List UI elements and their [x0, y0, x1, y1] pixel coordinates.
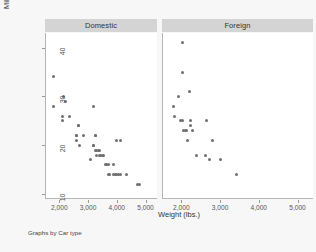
data-point	[172, 105, 175, 108]
y-axis-tick	[42, 145, 45, 146]
data-point	[181, 41, 184, 44]
panel-header-domestic: Domestic	[45, 19, 157, 32]
data-point	[75, 134, 78, 137]
data-point	[94, 149, 97, 152]
x-axis-tick	[259, 200, 260, 203]
x-axis-tick-label: 3,000	[207, 204, 233, 211]
x-axis-tick	[117, 200, 118, 203]
data-point	[82, 134, 85, 137]
data-point	[125, 173, 128, 176]
x-axis-tick-label: 4,000	[104, 204, 130, 211]
data-point	[173, 115, 176, 118]
x-axis-tick-label: 2,000	[168, 204, 194, 211]
x-axis-tick-label: 3,000	[75, 204, 101, 211]
y-axis-tick-label: 40	[59, 47, 66, 69]
x-axis-tick-label: 5,000	[133, 204, 159, 211]
data-point	[204, 154, 207, 157]
data-point	[75, 139, 78, 142]
data-point	[94, 134, 97, 137]
stata-scatter-figure: Domestic Foreign Mileage (mpg) Weight (l…	[0, 0, 316, 252]
data-point	[188, 90, 191, 93]
x-axis-tick-label: 4,000	[246, 204, 272, 211]
y-axis-tick-label: 30	[59, 96, 66, 118]
data-point	[191, 129, 194, 132]
y-axis-title: Mileage (mpg)	[2, 0, 11, 50]
data-point	[98, 149, 101, 152]
panel-header-foreign: Foreign	[162, 19, 313, 32]
x-axis-tick	[146, 200, 147, 203]
data-point	[211, 139, 214, 142]
y-axis-tick	[42, 96, 45, 97]
y-axis-tick-label: 10	[59, 194, 66, 216]
y-axis-tick-label: 20	[59, 145, 66, 167]
x-axis-tick	[88, 200, 89, 203]
data-point	[77, 124, 80, 127]
x-axis-tick	[298, 200, 299, 203]
y-axis-tick	[42, 194, 45, 195]
data-point	[78, 144, 81, 147]
data-point	[115, 139, 118, 142]
data-point	[119, 139, 122, 142]
x-axis-title: Weight (lbs.)	[45, 210, 313, 219]
x-axis-tick-label: 5,000	[285, 204, 311, 211]
x-axis-tick	[181, 200, 182, 203]
figure-footnote: Graphs by Car type	[28, 229, 82, 236]
y-axis-tick	[42, 48, 45, 49]
data-point	[186, 139, 189, 142]
plot-area: Domestic Foreign Mileage (mpg) Weight (l…	[0, 0, 316, 252]
data-point	[52, 105, 55, 108]
x-axis-tick	[220, 200, 221, 203]
